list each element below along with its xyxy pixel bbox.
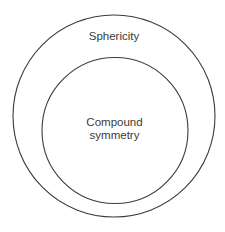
inner-set-label-line1: Compound [86,116,142,128]
outer-set-label: Sphericity [89,30,140,42]
inner-set-label-line2: symmetry [90,129,140,141]
nested-sets-diagram: Sphericity Compound symmetry [0,0,225,232]
